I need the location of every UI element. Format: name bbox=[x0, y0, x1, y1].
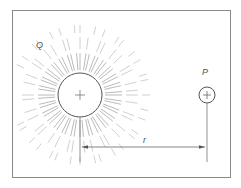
charge-q-label: Q bbox=[36, 40, 43, 50]
arrow-head-right bbox=[199, 145, 205, 148]
point-p-label: P bbox=[202, 67, 208, 77]
frame bbox=[13, 11, 231, 178]
electric-field-diagram: Q P r bbox=[0, 0, 241, 188]
arrow-head-left bbox=[82, 145, 88, 148]
distance-r-label: r bbox=[143, 135, 147, 145]
